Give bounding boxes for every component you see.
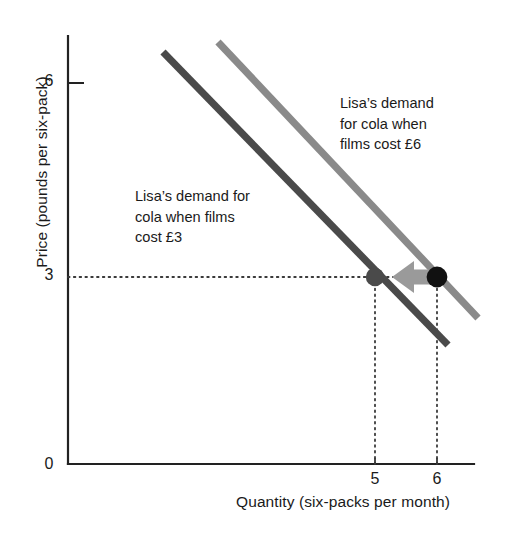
- marker-point-quantity-6: [427, 267, 448, 288]
- y-tick-label-6: 6: [36, 72, 62, 90]
- demand-high-annotation: Lisa’s demand for cola when films cost £…: [340, 93, 490, 155]
- x-axis-title: Quantity (six-packs per month): [236, 493, 450, 511]
- marker-point-quantity-5: [366, 268, 384, 286]
- y-tick-label-3: 3: [36, 266, 62, 284]
- y-tick-label-0: 0: [36, 455, 62, 473]
- chart-canvas: [0, 0, 506, 539]
- demand-low-annotation: Lisa’s demand for cola when films cost £…: [135, 186, 285, 248]
- x-tick-label-5: 5: [362, 470, 388, 488]
- demand-shift-chart: Price (pounds per six-pack) Quantity (si…: [0, 0, 506, 539]
- x-tick-label-6: 6: [424, 470, 450, 488]
